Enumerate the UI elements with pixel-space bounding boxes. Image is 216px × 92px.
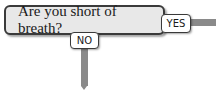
no-connector (81, 48, 88, 86)
no-label: NO (70, 32, 99, 49)
yes-connector (190, 19, 216, 26)
question-box: Are you short of breath? (4, 5, 165, 35)
yes-label: YES (161, 14, 191, 33)
